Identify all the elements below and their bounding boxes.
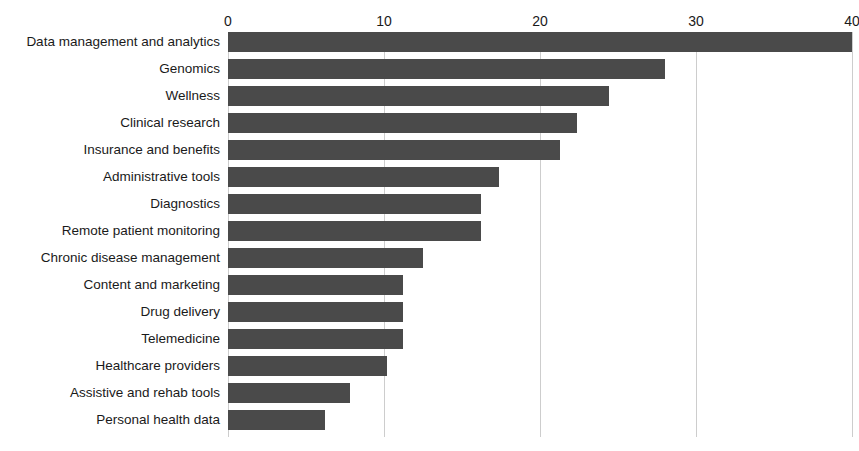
bar: [228, 59, 665, 79]
bar-row: Clinical research: [0, 113, 859, 140]
bar: [228, 194, 481, 214]
x-axis-tick-labels: 010203040: [0, 13, 859, 32]
bar-row: Administrative tools: [0, 167, 859, 194]
x-tick-label-0: 0: [224, 13, 232, 29]
bar: [228, 302, 403, 322]
category-label: Data management and analytics: [0, 32, 220, 52]
bar-row: Personal health data: [0, 410, 859, 437]
bar-row: Wellness: [0, 86, 859, 113]
bar-row: Content and marketing: [0, 275, 859, 302]
bar: [228, 32, 852, 52]
bar-row: Data management and analytics: [0, 32, 859, 59]
category-label: Telemedicine: [0, 329, 220, 349]
bar-row: Assistive and rehab tools: [0, 383, 859, 410]
x-tick-label-30: 30: [688, 13, 704, 29]
x-tick-label-20: 20: [532, 13, 548, 29]
category-label: Drug delivery: [0, 302, 220, 322]
category-label: Content and marketing: [0, 275, 220, 295]
category-label: Chronic disease management: [0, 248, 220, 268]
category-label: Insurance and benefits: [0, 140, 220, 160]
bar-row: Drug delivery: [0, 302, 859, 329]
bar: [228, 113, 577, 133]
category-label: Healthcare providers: [0, 356, 220, 376]
bar: [228, 140, 560, 160]
bar: [228, 329, 403, 349]
category-label: Personal health data: [0, 410, 220, 430]
bar-row: Remote patient monitoring: [0, 221, 859, 248]
bar-chart: Digital health startups by category 0102…: [0, 0, 859, 451]
bar-row: Genomics: [0, 59, 859, 86]
category-label: Diagnostics: [0, 194, 220, 214]
category-label: Assistive and rehab tools: [0, 383, 220, 403]
bar: [228, 86, 609, 106]
bar-row: Healthcare providers: [0, 356, 859, 383]
bar-rows: Data management and analyticsGenomicsWel…: [0, 32, 859, 437]
bar-row: Chronic disease management: [0, 248, 859, 275]
category-label: Genomics: [0, 59, 220, 79]
x-tick-label-40: 40: [844, 13, 859, 29]
bar: [228, 383, 350, 403]
x-tick-label-10: 10: [376, 13, 392, 29]
category-label: Clinical research: [0, 113, 220, 133]
bar: [228, 275, 403, 295]
bar-row: Diagnostics: [0, 194, 859, 221]
bar: [228, 356, 387, 376]
category-label: Wellness: [0, 86, 220, 106]
bar: [228, 410, 325, 430]
bar: [228, 167, 499, 187]
category-label: Administrative tools: [0, 167, 220, 187]
category-label: Remote patient monitoring: [0, 221, 220, 241]
bar: [228, 221, 481, 241]
bar-row: Telemedicine: [0, 329, 859, 356]
bar: [228, 248, 423, 268]
bar-row: Insurance and benefits: [0, 140, 859, 167]
